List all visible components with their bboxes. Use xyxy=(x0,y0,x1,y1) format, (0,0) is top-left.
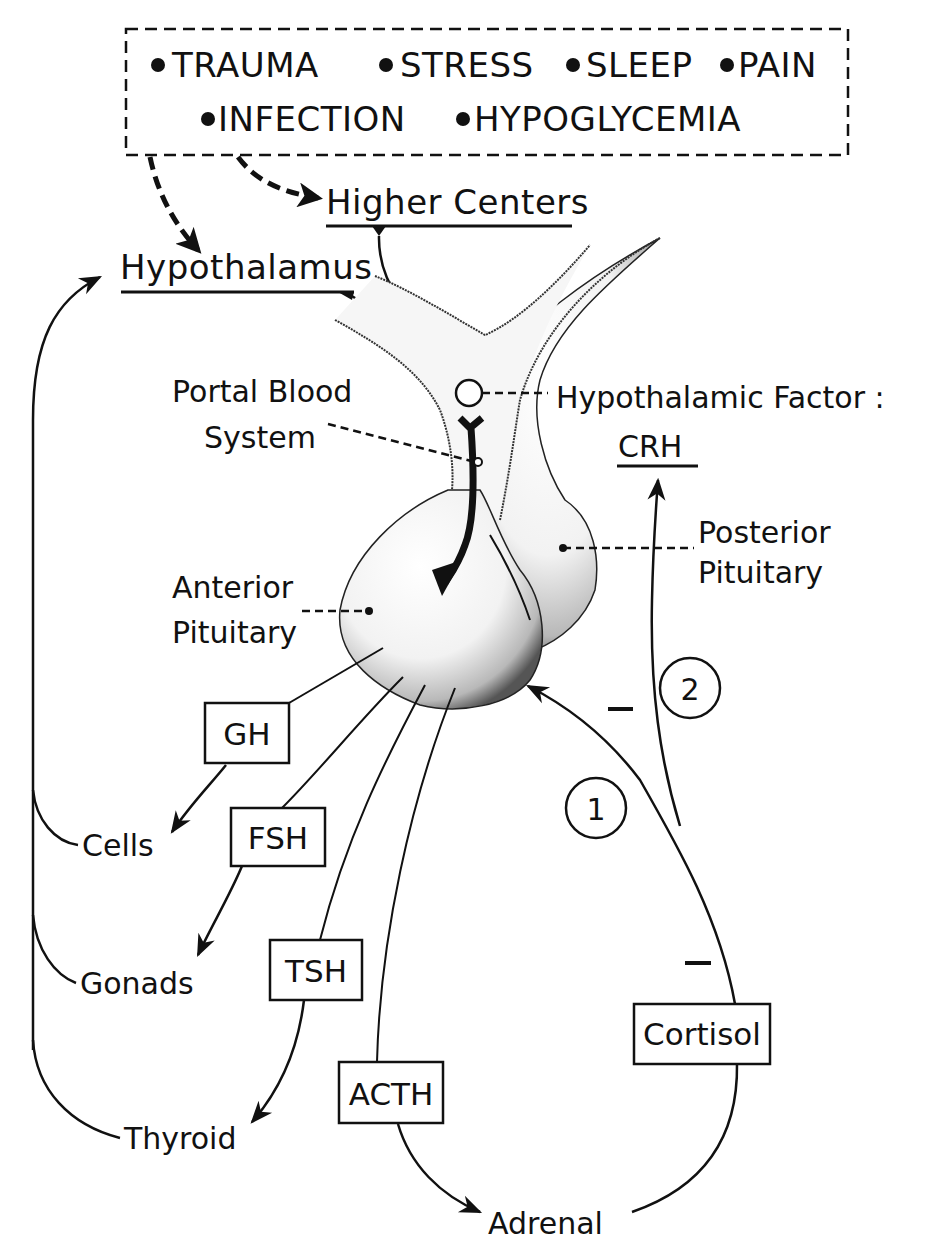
hypothalamic-factor-node xyxy=(456,380,482,406)
stimulus-hypoglycemia: HYPOGLYCEMIA xyxy=(474,99,741,139)
gh-box: GH xyxy=(205,703,289,763)
feedback-loop-1-marker: 1 xyxy=(566,778,626,838)
fsh-box: FSH xyxy=(231,808,325,866)
bullet-icon xyxy=(720,58,734,72)
svg-text:GH: GH xyxy=(223,716,270,752)
stimuli-to-hypothalamus-arrow xyxy=(150,157,198,250)
crh-label: CRH xyxy=(618,429,682,464)
cells-label: Cells xyxy=(82,828,154,863)
svg-text:2: 2 xyxy=(680,672,699,707)
svg-text:1: 1 xyxy=(586,792,605,827)
pituitary-gland xyxy=(335,238,660,709)
tsh-box: TSH xyxy=(270,940,362,1000)
adrenal-label: Adrenal xyxy=(488,1206,603,1241)
svg-text:TSH: TSH xyxy=(284,953,347,989)
adrenal-to-cortisol-line xyxy=(632,1064,737,1212)
bullet-icon xyxy=(151,58,165,72)
bullet-icon xyxy=(379,58,393,72)
bullet-icon xyxy=(456,112,470,126)
bullet-icon xyxy=(566,58,580,72)
stimulus-pain: PAIN xyxy=(738,45,817,85)
posterior-pituitary-label-2: Pituitary xyxy=(698,555,823,590)
higher-centers-label: Higher Centers xyxy=(326,182,589,222)
peripheral-feedback-arrow xyxy=(33,277,100,1050)
bullet-icon xyxy=(201,112,215,126)
posterior-pituitary-label-1: Posterior xyxy=(698,515,831,550)
stimuli-box: TRAUMA STRESS SLEEP PAIN INFECTION HYPOG… xyxy=(126,29,848,155)
anterior-pituitary-label-2: Pituitary xyxy=(172,615,297,650)
stimulus-sleep: SLEEP xyxy=(586,45,693,85)
portal-system-label: System xyxy=(204,420,316,455)
svg-text:ACTH: ACTH xyxy=(349,1076,434,1112)
svg-text:FSH: FSH xyxy=(248,820,308,856)
stimulus-trauma: TRAUMA xyxy=(171,45,319,85)
stimulus-stress: STRESS xyxy=(400,45,534,85)
acth-box: ACTH xyxy=(339,1062,443,1123)
gonads-label: Gonads xyxy=(80,966,194,1001)
cortisol-feedback-pituitary-arrow xyxy=(528,686,735,1004)
feedback-loop-2-marker: 2 xyxy=(660,658,720,718)
cortisol-box: Cortisol xyxy=(634,1004,770,1064)
stimuli-to-higher-centers-arrow xyxy=(238,157,318,198)
portal-blood-label: Portal Blood xyxy=(172,374,352,409)
thyroid-label: Thyroid xyxy=(123,1121,237,1156)
cortisol-feedback-hypothalamus-arrow xyxy=(652,480,680,826)
svg-text:Cortisol: Cortisol xyxy=(643,1016,761,1052)
anterior-pituitary-label-1: Anterior xyxy=(172,570,294,605)
hypothalamic-factor-label: Hypothalamic Factor : xyxy=(556,380,885,415)
stimulus-infection: INFECTION xyxy=(218,99,406,139)
hpa-axis-diagram: TRAUMA STRESS SLEEP PAIN INFECTION HYPOG… xyxy=(0,0,940,1260)
hypothalamus-label: Hypothalamus xyxy=(120,247,372,287)
